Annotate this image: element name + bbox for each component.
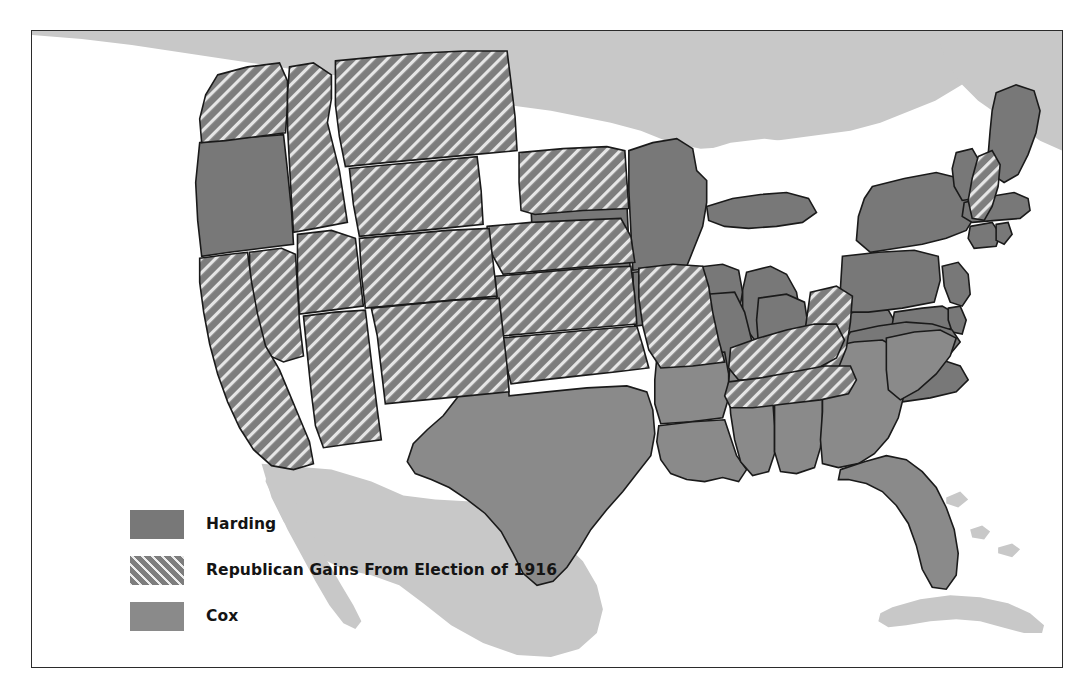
legend-swatch-cox: [130, 602, 184, 631]
state-colorado: [359, 228, 497, 308]
state-florida: [838, 456, 958, 590]
legend-swatch-harding: [130, 510, 184, 539]
canada-landmass: [32, 31, 1062, 149]
state-oregon: [196, 135, 294, 257]
legend-label-cox: Cox: [206, 607, 238, 625]
state-minnesota: [629, 139, 707, 271]
map-legend: Harding Republican Gains From Election o…: [130, 509, 590, 647]
election-map-figure: Harding Republican Gains From Election o…: [0, 0, 1087, 696]
state-new-mexico: [371, 298, 509, 404]
state-arizona: [303, 310, 381, 448]
lake-huron: [810, 177, 858, 243]
state-new-jersey: [942, 262, 970, 306]
state-michigan-upper: [707, 192, 817, 228]
legend-label-republican-gains: Republican Gains From Election of 1916: [206, 561, 557, 579]
state-kansas: [495, 266, 637, 336]
state-wyoming: [349, 157, 483, 237]
legend-swatch-republican-gains: [130, 556, 184, 585]
state-north-dakota: [519, 147, 629, 215]
state-utah: [297, 230, 363, 314]
map-frame: Harding Republican Gains From Election o…: [31, 30, 1063, 668]
legend-item-harding: Harding: [130, 509, 590, 539]
cuba-landmass: [878, 595, 1044, 633]
state-montana: [335, 51, 517, 167]
legend-label-harding: Harding: [206, 515, 276, 533]
state-washington: [200, 63, 288, 143]
state-rhode-island: [996, 222, 1012, 244]
state-pennsylvania: [840, 250, 940, 312]
legend-item-republican-gains: Republican Gains From Election of 1916: [130, 555, 590, 585]
legend-item-cox: Cox: [130, 601, 590, 631]
